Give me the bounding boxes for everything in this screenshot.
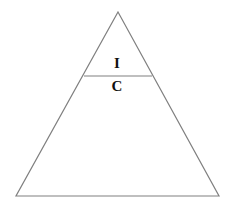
region-label-upper: I [114, 56, 120, 71]
region-label-lower: C [112, 79, 123, 94]
triangle-figure [0, 0, 238, 211]
diagram-canvas: I C [0, 0, 238, 211]
outer-triangle-shape [16, 12, 219, 196]
